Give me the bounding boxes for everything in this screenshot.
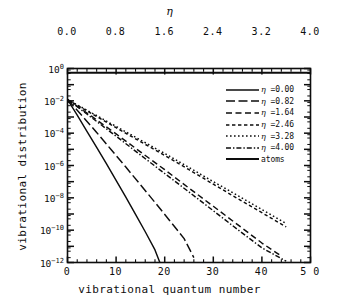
legend-line-sample <box>226 121 259 129</box>
x-tick-label: 0 <box>64 266 71 277</box>
legend-label: η =1.64 <box>261 108 294 117</box>
chart-legend: η =0.00η =0.82η =1.64η =2.46η =3.28η =4.… <box>226 84 310 165</box>
legend-item: η =1.64 <box>226 107 310 119</box>
legend-label: η =0.00 <box>261 85 294 94</box>
series-line <box>68 100 160 263</box>
legend-label: η =2.46 <box>261 120 294 129</box>
x-tick-label: 10 <box>109 266 122 277</box>
legend-label: η =4.00 <box>261 143 294 152</box>
x-tick-label: 5 0 <box>300 266 320 277</box>
legend-item: η =3.28 <box>226 130 310 142</box>
y-tick-label: 100 <box>48 62 64 74</box>
y-tick-label: 10−6 <box>44 159 64 171</box>
legend-item: η =4.00 <box>226 142 310 154</box>
y-tick-label: 10−10 <box>40 224 64 236</box>
legend-item: atoms <box>226 154 310 166</box>
x-axis-tick-labels: 0102030405 0 <box>67 266 310 280</box>
series-line <box>68 100 194 258</box>
legend-line-sample <box>226 155 259 163</box>
y-axis-title: vibrational distribution <box>16 57 29 277</box>
x-axis-title: vibrational quantum number <box>0 283 339 296</box>
legend-item: η =0.82 <box>226 96 310 108</box>
legend-line-sample <box>226 97 259 105</box>
legend-label: atoms <box>261 155 285 164</box>
chart-figure: η 0.00.81.62.43.24.0 10010−210−410−610−8… <box>0 0 339 308</box>
legend-line-sample <box>226 86 259 94</box>
y-tick-label: 10−12 <box>40 256 64 268</box>
legend-line-sample <box>226 132 259 140</box>
legend-line-sample <box>226 144 259 152</box>
y-tick-label: 10−8 <box>44 192 64 204</box>
legend-label: η =0.82 <box>261 97 294 106</box>
x-tick-label: 20 <box>158 266 171 277</box>
x-tick-label: 40 <box>255 266 268 277</box>
y-tick-label: 10−2 <box>44 95 64 107</box>
y-tick-label: 10−4 <box>44 127 64 139</box>
legend-item: η =0.00 <box>226 84 310 96</box>
legend-item: η =2.46 <box>226 119 310 131</box>
legend-line-sample <box>226 109 259 117</box>
legend-label: η =3.28 <box>261 132 294 141</box>
x-tick-label: 30 <box>206 266 219 277</box>
